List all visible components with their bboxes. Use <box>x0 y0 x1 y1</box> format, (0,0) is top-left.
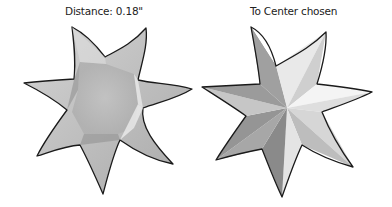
right-star-faceted <box>202 27 372 197</box>
star-illustrations <box>0 0 392 207</box>
left-star-beveled <box>24 27 192 194</box>
